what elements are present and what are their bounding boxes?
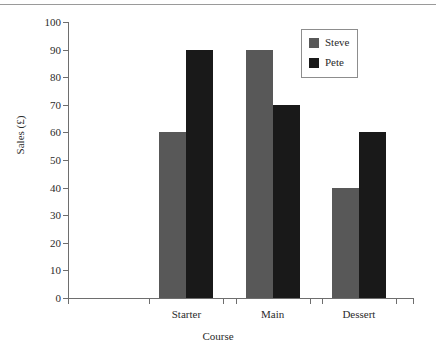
x-axis-line (68, 298, 413, 299)
y-axis-title: Sales (£) (14, 116, 26, 155)
y-tick: 40 (68, 188, 74, 189)
bar-starter-pete[interactable] (186, 50, 213, 298)
y-tick: 90 (68, 50, 74, 51)
y-tick-mark (63, 215, 69, 216)
y-tick: 10 (68, 270, 74, 271)
bar-dessert-steve[interactable] (332, 188, 359, 298)
y-tick-mark (63, 243, 69, 244)
y-tick-mark (63, 22, 69, 23)
y-tick-mark (63, 160, 69, 161)
x-tick-mark (236, 298, 237, 304)
bar-dessert-pete[interactable] (359, 132, 386, 298)
y-tick-label: 40 (50, 182, 61, 193)
x-tick-mark (413, 298, 414, 304)
legend-swatch-icon (309, 38, 319, 48)
y-tick: 50 (68, 160, 74, 161)
plot-area: 0102030405060708090100 (68, 22, 413, 298)
y-tick-label: 100 (45, 17, 62, 28)
x-tick-mark (223, 298, 224, 304)
x-tick-mark (68, 298, 69, 304)
y-tick-label: 90 (50, 44, 61, 55)
y-tick-label: 50 (50, 155, 61, 166)
y-tick: 80 (68, 77, 74, 78)
legend: Steve Pete (301, 29, 358, 78)
y-tick-mark (63, 132, 69, 133)
legend-label: Steve (325, 37, 349, 48)
y-tick-mark (63, 188, 69, 189)
x-tick-label-main: Main (261, 308, 284, 320)
x-tick-label-dessert: Dessert (342, 308, 375, 320)
y-tick-label: 70 (50, 99, 61, 110)
bar-main-steve[interactable] (246, 50, 273, 298)
y-tick-label: 80 (50, 72, 61, 83)
y-tick-mark (63, 50, 69, 51)
y-tick-mark (63, 105, 69, 106)
legend-item-pete[interactable]: Pete (309, 57, 344, 68)
x-tick-label-starter: Starter (172, 308, 201, 320)
x-tick-mark (310, 298, 311, 304)
y-tick-label: 10 (50, 265, 61, 276)
y-tick-mark (63, 77, 69, 78)
bar-starter-steve[interactable] (159, 132, 186, 298)
legend-label: Pete (325, 57, 344, 68)
x-axis-title: Course (0, 330, 436, 342)
bar-main-pete[interactable] (273, 105, 300, 298)
bar-chart: Sales (£) 0102030405060708090100 Starter… (0, 0, 436, 356)
x-tick-mark (149, 298, 150, 304)
top-divider (0, 4, 436, 5)
y-tick-mark (63, 270, 69, 271)
y-tick: 70 (68, 105, 74, 106)
x-tick-mark (396, 298, 397, 304)
legend-item-steve[interactable]: Steve (309, 37, 349, 48)
y-tick-label: 60 (50, 127, 61, 138)
x-tick-mark (322, 298, 323, 304)
y-tick: 100 (68, 22, 74, 23)
y-tick: 30 (68, 215, 74, 216)
legend-swatch-icon (309, 58, 319, 68)
y-tick: 20 (68, 243, 74, 244)
y-tick: 60 (68, 132, 74, 133)
y-tick-label: 30 (50, 210, 61, 221)
y-tick-label: 0 (56, 293, 62, 304)
y-tick-label: 20 (50, 237, 61, 248)
